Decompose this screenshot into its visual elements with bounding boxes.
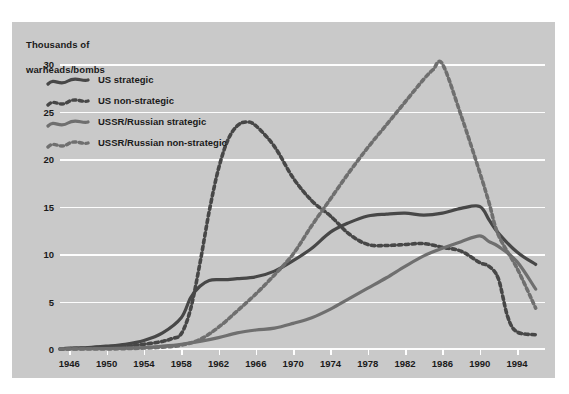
x-tick-label-1982: 1982 [395, 358, 416, 369]
x-tick-label-1970: 1970 [283, 358, 304, 369]
legend-swatch-icon [46, 117, 90, 131]
x-tick-label-1946: 1946 [59, 358, 80, 369]
x-tick-label-1986: 1986 [432, 358, 453, 369]
legend-item-us-non-strategic[interactable]: US non-strategic [46, 93, 276, 114]
x-tick-label-1978: 1978 [357, 358, 378, 369]
y-tick-label-10: 10 [24, 249, 54, 260]
y-tick-label-15: 15 [24, 201, 54, 212]
x-tick-label-1950: 1950 [96, 358, 117, 369]
legend-item-us-strategic[interactable]: US strategic [46, 72, 276, 93]
y-axis-title-line-1: Thousands of [26, 39, 89, 50]
legend-swatch-icon [46, 75, 90, 89]
legend-swatch-icon [46, 96, 90, 110]
legend-item-ussr-russian-non-strategic[interactable]: USSR/Russian non-strategic [46, 135, 276, 156]
chart-figure: Thousands of warheads/bombs 051015202530… [0, 0, 569, 394]
legend-label: USSR/Russian strategic [98, 116, 206, 127]
x-tick-label-1958: 1958 [171, 358, 192, 369]
legend-label: US non-strategic [98, 95, 174, 106]
legend-label: USSR/Russian non-strategic [98, 137, 227, 148]
legend-swatch-icon [46, 138, 90, 152]
chart-legend: US strategicUS non-strategicUSSR/Russian… [46, 72, 276, 156]
series-line-us-strategic [60, 206, 536, 349]
x-tick-label-1990: 1990 [469, 358, 490, 369]
x-tick-label-1954: 1954 [133, 358, 154, 369]
legend-label: US strategic [98, 74, 153, 85]
y-tick-label-0: 0 [24, 344, 54, 355]
x-axis-tick-labels: 1946195019541958196219661970197419781982… [60, 349, 545, 371]
x-tick-label-1994: 1994 [506, 358, 527, 369]
series-line-us-non-strategic [60, 122, 536, 349]
y-tick-label-30: 30 [24, 59, 54, 70]
x-tick-label-1962: 1962 [208, 358, 229, 369]
x-tick-label-1974: 1974 [320, 358, 341, 369]
x-tick-label-1966: 1966 [245, 358, 266, 369]
y-tick-label-5: 5 [24, 296, 54, 307]
legend-item-ussr-russian-strategic[interactable]: USSR/Russian strategic [46, 114, 276, 135]
